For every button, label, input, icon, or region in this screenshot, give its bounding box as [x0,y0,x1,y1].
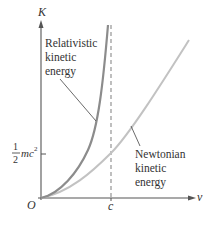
origin-label: O [27,198,36,212]
y-tick-label: 1 2 mc 2 [12,141,38,165]
fraction-numerator: 1 [13,141,18,152]
newtonian-label-line-2: kinetic [135,162,166,174]
newtonian-leader-line [131,126,140,146]
x-axis-label: v [197,190,203,204]
newtonian-label-line-3: energy [135,176,166,189]
newtonian-curve [41,40,189,198]
kinetic-energy-diagram: K v O 1 2 mc 2 c Relativistic kinetic en… [0,0,215,225]
relativistic-leader-line [60,79,96,121]
y-axis-label: K [37,5,47,19]
y-tick-term: mc [21,147,34,159]
y-tick-exponent: 2 [34,145,38,153]
fraction-denominator: 2 [13,154,18,165]
x-axis-arrow-icon [188,196,196,201]
relativistic-label-line-3: energy [45,65,76,78]
x-tick-label: c [108,199,114,213]
newtonian-label: Newtonian kinetic energy [135,148,186,189]
relativistic-label-line-1: Relativistic [45,37,97,49]
relativistic-label-line-2: kinetic [45,51,76,63]
relativistic-label: Relativistic kinetic energy [45,37,97,78]
y-axis-arrow-icon [39,20,44,28]
newtonian-label-line-1: Newtonian [135,148,186,160]
